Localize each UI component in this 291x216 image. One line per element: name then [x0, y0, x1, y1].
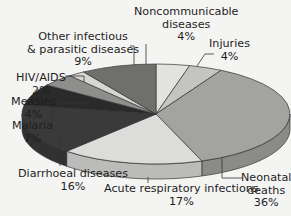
- label-text: Malaria: [12, 120, 53, 133]
- label-text: Other infectious: [27, 31, 139, 44]
- label-acute-respiratory: Acute respiratory infections 17%: [104, 183, 259, 208]
- label-value: 17%: [104, 196, 259, 209]
- label-text: Neonatal: [241, 172, 291, 185]
- label-value: 7%: [12, 133, 53, 146]
- label-text: HIV/AIDS: [16, 72, 66, 85]
- label-malaria: Malaria 7%: [12, 120, 53, 145]
- label-value: 4%: [209, 51, 250, 64]
- label-text: Acute respiratory infections: [104, 183, 259, 196]
- label-neonatal: Neonatal deaths 36%: [241, 172, 291, 210]
- label-value: 36%: [241, 197, 291, 210]
- leader-line: [197, 54, 205, 66]
- label-other-infectious: Other infectious & parasitic diseases 9%: [27, 31, 139, 69]
- label-text: Noncommunicable: [134, 6, 238, 19]
- label-measles: Measles 4%: [11, 96, 56, 121]
- pie-chart-figure: Noncommunicable diseases 4% Injuries 4% …: [0, 0, 291, 216]
- label-text: Diarrhoeal diseases: [18, 168, 128, 181]
- label-text: Injuries: [209, 38, 250, 51]
- label-hiv-aids: HIV/AIDS 2%: [16, 72, 66, 97]
- label-injuries: Injuries 4%: [209, 38, 250, 63]
- label-text: Measles: [11, 96, 56, 109]
- label-value: 9%: [27, 56, 139, 69]
